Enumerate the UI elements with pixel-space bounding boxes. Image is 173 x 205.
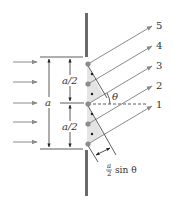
ray-5: [88, 26, 152, 64]
ray-label-5: 5: [156, 20, 162, 31]
path-difference-label: a 2 sin θ: [106, 162, 137, 178]
single-slit-diagram: a a/2 a/2 5 4 3 2 1 θ a 2 sin θ: [0, 0, 173, 205]
source-small: [91, 73, 93, 75]
source-large: [85, 81, 90, 86]
source-large: [85, 141, 90, 146]
path-diff-numerator: a: [107, 162, 111, 170]
ray-label-1: 1: [156, 99, 162, 110]
ray-4: [88, 46, 152, 84]
ray-label-2: 2: [156, 80, 162, 91]
source-large: [85, 61, 90, 66]
source-large: [85, 101, 90, 106]
wavefront-bottom: [87, 144, 98, 162]
label-angle-theta: θ: [112, 91, 118, 102]
source-small: [91, 93, 93, 95]
label-half-width-upper: a/2: [62, 75, 78, 86]
barrier-top: [85, 13, 88, 57]
ray-label-4: 4: [156, 40, 162, 51]
path-difference-arrow: [96, 148, 110, 155]
label-slit-width: a: [45, 97, 51, 108]
ray-label-3: 3: [156, 60, 162, 71]
label-half-width-lower: a/2: [62, 121, 78, 132]
source-small: [91, 133, 93, 135]
path-diff-denominator: 2: [107, 170, 111, 178]
angle-theta-arc: [107, 93, 110, 104]
path-diff-sin-theta: sin θ: [115, 165, 137, 175]
source-small: [91, 113, 93, 115]
barrier-bottom: [85, 150, 88, 196]
incoming-wave-arrows: [13, 62, 37, 142]
source-large: [85, 121, 90, 126]
